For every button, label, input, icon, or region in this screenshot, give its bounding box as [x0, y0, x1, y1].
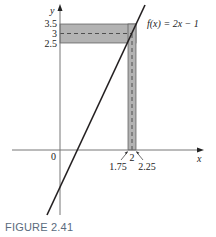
x-tick-1-75: 1.75	[109, 161, 127, 172]
arrow-175-head-icon	[125, 151, 128, 154]
function-graph: y x 0 3.5 3 2.5 1.75 2 2.25 f(x) = 2x − …	[0, 0, 216, 237]
origin-label: 0	[51, 151, 56, 162]
x-tick-2: 2	[130, 152, 135, 163]
figure-caption: FIGURE 2.41	[5, 221, 73, 233]
arrow-225-head-icon	[136, 151, 139, 154]
y-tick-2-5: 2.5	[45, 38, 58, 49]
x-tick-2-25: 2.25	[138, 161, 156, 172]
x-axis-label: x	[196, 153, 202, 164]
y-axis-arrow-icon	[58, 4, 63, 11]
function-label: f(x) = 2x − 1	[147, 18, 199, 30]
x-axis-arrow-icon	[197, 148, 204, 153]
y-axis-label: y	[49, 5, 55, 16]
